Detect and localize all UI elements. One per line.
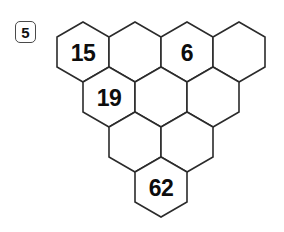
hex-cell-value: 62: [149, 175, 174, 201]
hex-cell-value: 19: [97, 85, 122, 111]
hexagon-puzzle-root: 5 1561962: [0, 0, 284, 232]
hex-cell-value: 15: [71, 40, 96, 66]
hex-cell-value: 6: [181, 40, 193, 66]
hexagon-grid-svg: 1561962: [0, 0, 284, 232]
hexagon-grid: 1561962: [0, 0, 284, 232]
